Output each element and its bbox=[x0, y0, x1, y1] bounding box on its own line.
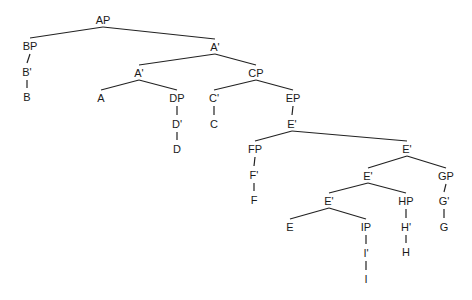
tree-node-b: B bbox=[23, 91, 30, 103]
tree-edge-e1c-hp bbox=[368, 183, 406, 193]
tree-node-f1: F' bbox=[250, 169, 259, 181]
tree-node-e1d: E' bbox=[324, 195, 333, 207]
tree-node-ap: AP bbox=[96, 14, 111, 26]
tree-edge-ap-a1a bbox=[103, 27, 215, 39]
tree-node-h1: H' bbox=[401, 221, 411, 233]
tree-edge-a1a-cp bbox=[215, 54, 256, 65]
tree-edge-cp-c1 bbox=[214, 80, 256, 90]
tree-edge-ep-e1a bbox=[292, 106, 293, 115]
tree-node-c1: C' bbox=[209, 92, 219, 104]
tree-node-i: I bbox=[364, 273, 367, 285]
tree-node-ep: EP bbox=[286, 92, 301, 104]
tree-node-hp: HP bbox=[398, 195, 413, 207]
tree-node-b1: B' bbox=[22, 66, 31, 78]
tree-nodes: APBPB'BA'A'ADPD'DCPC'CEPE'FPF'FE'E'GPG'G… bbox=[22, 14, 454, 285]
tree-edge-a1b-dp bbox=[139, 80, 177, 90]
tree-edge-a1b-a bbox=[101, 80, 139, 90]
tree-node-c: C bbox=[210, 118, 218, 130]
tree-edge-e1b-e1c bbox=[368, 156, 407, 168]
tree-node-a: A bbox=[97, 92, 105, 104]
tree-node-dp: DP bbox=[169, 92, 184, 104]
tree-node-fp: FP bbox=[248, 143, 262, 155]
tree-node-g1: G' bbox=[439, 195, 450, 207]
tree-node-cp: CP bbox=[248, 67, 263, 79]
tree-node-f: F bbox=[251, 194, 258, 206]
tree-node-e1c: E' bbox=[363, 170, 372, 182]
tree-node-e: E bbox=[286, 221, 293, 233]
tree-edges bbox=[27, 27, 446, 270]
tree-node-a1a: A' bbox=[210, 41, 219, 53]
tree-node-a1b: A' bbox=[134, 67, 143, 79]
tree-node-e1b: E' bbox=[402, 143, 411, 155]
syntax-tree: APBPB'BA'A'ADPD'DCPC'CEPE'FPF'FE'E'GPG'G… bbox=[0, 0, 472, 300]
tree-edge-e1a-fp bbox=[255, 131, 292, 141]
tree-edge-ap-bp bbox=[30, 27, 103, 38]
tree-edge-gp-g1 bbox=[444, 184, 446, 192]
tree-node-d1: D' bbox=[172, 118, 182, 130]
tree-node-gp: GP bbox=[438, 170, 454, 182]
tree-edge-e1d-e bbox=[290, 208, 329, 219]
tree-edge-e1d-ip bbox=[329, 208, 366, 219]
tree-node-ip: IP bbox=[361, 221, 371, 233]
tree-node-g: G bbox=[440, 221, 449, 233]
tree-node-i1: I' bbox=[363, 247, 368, 259]
tree-node-d: D bbox=[173, 143, 181, 155]
tree-node-e1a: E' bbox=[287, 118, 296, 130]
tree-edge-e1c-e1d bbox=[329, 183, 368, 193]
tree-edge-bp-b1 bbox=[27, 54, 30, 63]
tree-edge-e1b-gp bbox=[407, 156, 446, 168]
tree-edge-a1a-a1b bbox=[139, 54, 215, 65]
tree-node-bp: BP bbox=[23, 40, 38, 52]
tree-edge-e1a-e1b bbox=[292, 131, 407, 141]
tree-edge-fp-f1 bbox=[254, 157, 255, 166]
tree-node-h: H bbox=[402, 246, 410, 258]
tree-edge-cp-ep bbox=[256, 80, 293, 90]
